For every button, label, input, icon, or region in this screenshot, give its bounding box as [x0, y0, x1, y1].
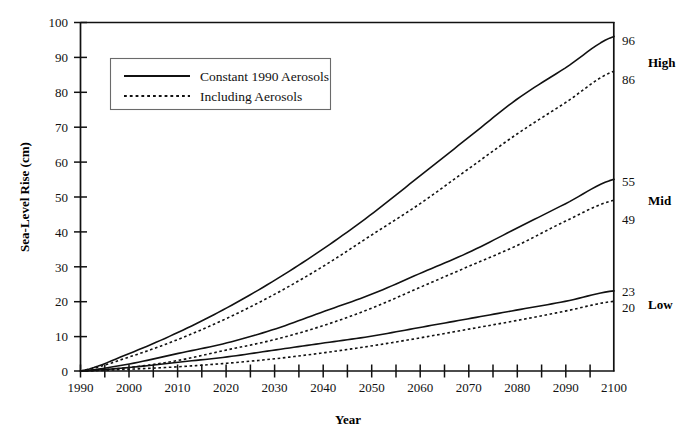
y-tick-label: 60: [55, 155, 68, 170]
y-tick-label: 70: [55, 120, 68, 135]
y-axis-tick-labels: 100 90 80 70 60 50 40 30 20 10 0: [49, 15, 69, 379]
end-value-mid-lower: 49: [622, 212, 635, 227]
x-tick-label: 2070: [456, 380, 482, 395]
x-axis-tick-labels: 1990 2000 2010 2020 2030 2040 2050 2060 …: [68, 380, 628, 395]
end-value-mid-upper: 55: [622, 174, 635, 189]
series-line-high-including: [81, 71, 615, 371]
chart-figure: 100 90 80 70 60 50 40 30 20 10 0: [0, 0, 695, 438]
y-tick-label: 100: [49, 15, 69, 30]
x-axis-title: Year: [335, 412, 361, 427]
x-tick-label: 2050: [359, 380, 385, 395]
y-tick-label: 30: [55, 260, 68, 275]
legend-label-including-aerosols: Including Aerosols: [200, 89, 302, 104]
x-tick-label: 2080: [504, 380, 530, 395]
chart-legend: Constant 1990 Aerosols Including Aerosol…: [111, 59, 331, 110]
sea-level-rise-line-chart: 100 90 80 70 60 50 40 30 20 10 0: [0, 0, 695, 438]
x-tick-label: 2100: [601, 380, 627, 395]
x-tick-label: 2020: [213, 380, 239, 395]
y-tick-label: 50: [55, 190, 68, 205]
x-tick-label: 2060: [407, 380, 433, 395]
end-value-high-upper: 96: [622, 33, 636, 48]
right-end-annotations: 96 High 86 55 Mid 49 23 Low 20: [622, 33, 676, 315]
end-label-low: Low: [648, 297, 673, 312]
series-line-low-including: [81, 301, 615, 371]
y-tick-label: 90: [55, 50, 68, 65]
x-tick-label: 1990: [68, 380, 94, 395]
y-axis-title: Sea-Level Rise (cm): [17, 142, 32, 252]
series-line-mid-constant: [81, 179, 615, 371]
x-tick-label: 2090: [553, 380, 579, 395]
end-value-high-lower: 86: [622, 72, 636, 87]
y-tick-label: 80: [55, 85, 68, 100]
x-tick-label: 2030: [262, 380, 288, 395]
end-value-low-upper: 23: [622, 284, 635, 299]
y-tick-label: 10: [55, 329, 68, 344]
end-value-low-lower: 20: [622, 300, 635, 315]
y-tick-label: 20: [55, 294, 68, 309]
x-tick-label: 2000: [116, 380, 142, 395]
end-label-mid: Mid: [648, 193, 672, 208]
y-tick-label: 40: [55, 225, 68, 240]
x-tick-label: 2010: [165, 380, 191, 395]
legend-label-constant-aerosols: Constant 1990 Aerosols: [200, 69, 329, 84]
x-tick-label: 2040: [310, 380, 336, 395]
end-label-high: High: [648, 55, 676, 70]
y-tick-label: 0: [62, 364, 69, 379]
